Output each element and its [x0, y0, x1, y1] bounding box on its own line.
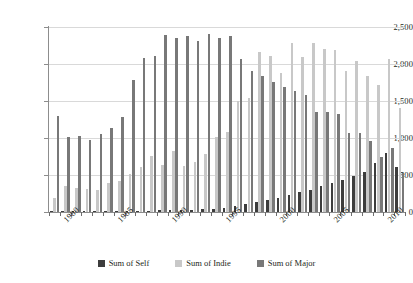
bar-major: [197, 41, 200, 212]
bar-major: [67, 137, 70, 212]
bar-major: [272, 82, 275, 212]
x-tick-mark: [329, 212, 330, 216]
bar-group: [329, 27, 340, 212]
bar-group: [125, 27, 136, 212]
legend-item-indie[interactable]: Sum of Indie: [175, 259, 230, 268]
x-tick-mark: [297, 212, 298, 216]
x-tick-mark: [92, 212, 93, 216]
legend-label: Sum of Major: [268, 259, 316, 268]
bar-major: [391, 148, 394, 212]
bar-group: [265, 27, 276, 212]
bar-major: [294, 91, 297, 212]
bar-major: [208, 34, 211, 212]
x-tick-mark: [189, 212, 190, 216]
legend-label: Sum of Indie: [186, 259, 230, 268]
bar-major: [251, 71, 254, 212]
bar-group: [286, 27, 297, 212]
bar-major: [305, 95, 308, 212]
legend-swatch-icon: [257, 260, 264, 267]
bar-group: [340, 27, 351, 212]
bar-major: [240, 59, 243, 212]
bar-group: [103, 27, 114, 212]
bar-group: [232, 27, 243, 212]
bar-group: [351, 27, 362, 212]
x-tick-mark: [135, 212, 136, 216]
bar-major: [261, 76, 264, 212]
bar-major: [132, 80, 135, 212]
bar-group: [297, 27, 308, 212]
bar-major: [359, 133, 362, 212]
x-tick-mark: [254, 212, 255, 216]
legend-item-major[interactable]: Sum of Major: [257, 259, 316, 268]
bar-major: [89, 140, 92, 212]
bar-major: [154, 56, 157, 212]
x-tick-mark: [362, 212, 363, 216]
x-tick-mark: [157, 212, 158, 216]
bar-group: [92, 27, 103, 212]
bar-major: [402, 173, 405, 212]
x-tick-mark: [243, 212, 244, 216]
plot-area: [49, 27, 405, 212]
bar-group: [319, 27, 330, 212]
x-tick-mark: [308, 212, 309, 216]
bar-major: [186, 36, 189, 212]
x-tick-mark: [168, 212, 169, 216]
bar-group: [383, 27, 394, 212]
bar-group: [81, 27, 92, 212]
bar-group: [71, 27, 82, 212]
bar-group: [146, 27, 157, 212]
bar-group: [254, 27, 265, 212]
x-tick-mark: [222, 212, 223, 216]
chart-legend: Sum of SelfSum of IndieSum of Major: [0, 259, 413, 268]
bar-group: [200, 27, 211, 212]
x-tick-mark: [405, 212, 406, 216]
x-tick-mark: [49, 212, 50, 216]
bar-major: [229, 36, 232, 212]
bar-group: [308, 27, 319, 212]
bar-group: [157, 27, 168, 212]
x-tick-mark: [351, 212, 352, 216]
legend-label: Sum of Self: [109, 259, 150, 268]
x-tick-mark: [103, 212, 104, 216]
x-tick-mark: [200, 212, 201, 216]
bar-group: [135, 27, 146, 212]
bar-major: [164, 35, 167, 212]
bar-chart: 05001,0001,5002,0002,500 198019851990199…: [0, 0, 413, 283]
bar-major: [326, 112, 329, 212]
bar-group: [114, 27, 125, 212]
bar-major: [143, 58, 146, 212]
bar-major: [100, 134, 103, 212]
x-tick-mark: [146, 212, 147, 216]
bar-group: [222, 27, 233, 212]
bar-group: [394, 27, 405, 212]
legend-item-self[interactable]: Sum of Self: [98, 259, 150, 268]
bar-group: [373, 27, 384, 212]
bar-major: [78, 136, 81, 212]
bar-group: [189, 27, 200, 212]
bar-major: [283, 87, 286, 212]
x-tick-mark: [81, 212, 82, 216]
bar-group: [211, 27, 222, 212]
x-tick-mark: [211, 212, 212, 216]
bar-group: [49, 27, 60, 212]
bar-major: [121, 117, 124, 212]
bar-major: [369, 141, 372, 212]
x-tick-mark: [383, 212, 384, 216]
legend-swatch-icon: [98, 260, 105, 267]
bar-group: [243, 27, 254, 212]
x-tick-mark: [60, 212, 61, 216]
bar-major: [337, 114, 340, 212]
bar-major: [315, 112, 318, 212]
bar-group: [168, 27, 179, 212]
bar-major: [57, 116, 60, 212]
bar-major: [348, 133, 351, 212]
bar-major: [380, 157, 383, 212]
x-tick-mark: [319, 212, 320, 216]
bar-major: [218, 38, 221, 212]
bar-group: [178, 27, 189, 212]
bar-group: [60, 27, 71, 212]
bar-major: [110, 128, 113, 212]
legend-swatch-icon: [175, 260, 182, 267]
bar-group: [362, 27, 373, 212]
x-tick-mark: [114, 212, 115, 216]
